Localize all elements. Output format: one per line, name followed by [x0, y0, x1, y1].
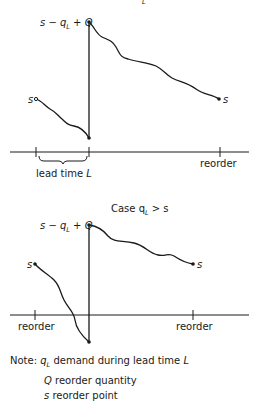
- end-point: [217, 97, 221, 101]
- note-text-3: reorder point: [49, 390, 118, 401]
- arrival-low-point: [87, 136, 91, 140]
- inventory-curve-post: [89, 225, 193, 264]
- note-heading: Note:: [10, 355, 37, 366]
- reorder-label-right: reorder: [176, 321, 214, 332]
- start-point: [34, 97, 37, 100]
- note-line-2: Q reorder quantity: [10, 373, 189, 388]
- end-label: s: [197, 259, 202, 270]
- start-label: s: [27, 259, 32, 270]
- inventory-curve-pre: [36, 99, 89, 138]
- lead-time-label: lead time L: [36, 168, 92, 179]
- bottom-panel: Case qL > s s − qL + Q s s reorder reord…: [10, 203, 249, 344]
- note-var-Q: Q: [44, 375, 52, 386]
- note-text-1: demand during lead time: [50, 355, 183, 366]
- end-label: s: [223, 94, 228, 105]
- lead-time-brace: [39, 156, 87, 164]
- start-label: s: [28, 94, 33, 105]
- top-panel: s − qL + Q s s lead time L reorder: [10, 17, 249, 179]
- note-var-L: L: [183, 355, 189, 366]
- arrival-low-point: [87, 340, 91, 344]
- cropped-title-fragment: L: [142, 0, 146, 6]
- note-line-1: Note: qL demand during lead time L: [10, 353, 189, 373]
- reorder-label: reorder: [200, 158, 238, 169]
- peak-label: s − qL + Q: [40, 17, 93, 31]
- start-point: [33, 262, 37, 266]
- reorder-label-left: reorder: [18, 321, 56, 332]
- note-line-3: s reorder point: [10, 388, 189, 403]
- peak-label: s − qL + Q: [40, 220, 93, 234]
- inventory-curve-post: [89, 22, 219, 99]
- case-title: Case qL > s: [111, 203, 169, 217]
- legend-note: Note: qL demand during lead time L Q reo…: [10, 353, 189, 403]
- end-point: [191, 262, 195, 266]
- note-text-2: reorder quantity: [52, 375, 137, 386]
